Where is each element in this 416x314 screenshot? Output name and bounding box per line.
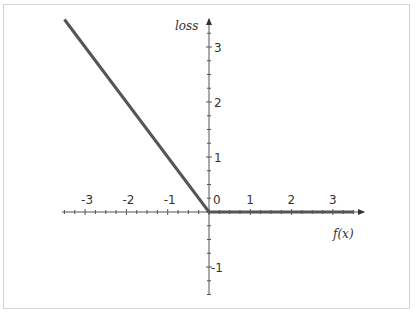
y-axis-label: loss [175,19,198,33]
x-tick-label: -2 [122,193,134,207]
y-tick-label: -1 [211,261,223,275]
hinge-loss-chart: -3-2-10123 -1123 loss f(x) [0,0,416,314]
y-tick-labels: -1123 [211,41,223,275]
x-tick-label: -3 [81,193,93,207]
y-tick-label: 1 [214,151,222,165]
x-tick-label: 1 [246,193,254,207]
x-tick-label: -1 [164,193,176,207]
y-tick-label: 3 [214,41,222,55]
x-tick-label: 0 [213,193,221,207]
x-tick-label: 2 [288,193,296,207]
x-tick-label: 3 [329,193,337,207]
y-tick-label: 2 [214,96,222,110]
x-axis-label: f(x) [332,227,354,241]
